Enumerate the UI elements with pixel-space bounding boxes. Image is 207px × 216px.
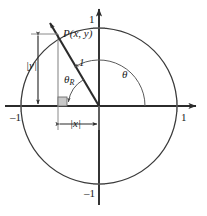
theta-label: θ: [122, 69, 127, 80]
y-axis-one-label: 1: [89, 14, 95, 25]
x-axis-one-label: 1: [181, 112, 187, 123]
unit-circle-drawing: [0, 0, 207, 216]
abs-x-label: |x|: [70, 118, 81, 129]
x-axis-negative-one-label: –1: [10, 112, 21, 123]
radius-label: 1: [79, 57, 85, 68]
theta-reference-label: θR: [64, 74, 74, 87]
point-label: P(x, y): [63, 28, 92, 39]
right-angle-marker: [58, 97, 67, 106]
y-axis-negative-one-label: –1: [84, 188, 95, 199]
abs-y-label: |y|: [26, 60, 37, 71]
unit-circle-figure: P(x, y) 1 |y| |x| θ θR –1 1 1 –1: [0, 0, 207, 216]
theta-reference-subscript: R: [69, 78, 74, 87]
